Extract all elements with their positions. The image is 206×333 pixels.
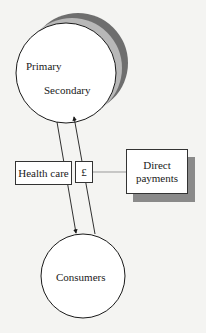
secondary-label: Secondary (44, 84, 90, 97)
currency-box: £ (75, 161, 93, 183)
currency-label: £ (81, 166, 87, 179)
direct-payments-line1: Direct (143, 159, 170, 172)
direct-payments-box: Direct payments (126, 149, 188, 194)
direct-payments-line2: payments (136, 172, 178, 185)
consumers-label: Consumers (56, 271, 106, 284)
health-care-label: Health care (18, 167, 68, 180)
health-care-box: Health care (15, 161, 72, 185)
providers-circle (16, 23, 116, 123)
primary-label: Primary (26, 60, 61, 73)
